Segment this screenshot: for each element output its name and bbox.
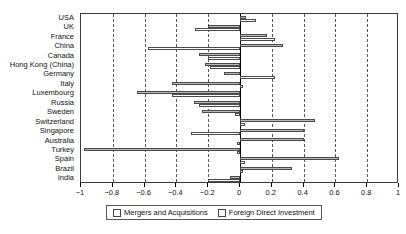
bar-mergers [84, 148, 240, 151]
y-axis-label: USA [59, 14, 74, 22]
bar-row [81, 156, 397, 165]
bar-row [81, 146, 397, 155]
x-tick-label: −1 [76, 188, 85, 197]
y-axis-label: Turkey [51, 146, 74, 154]
x-tick-mark [366, 183, 367, 187]
bar-mergers [240, 119, 315, 122]
bar-fdi [210, 66, 240, 69]
bar-fdi [235, 113, 240, 116]
bar-fdi [191, 132, 240, 135]
chart-figure: USAUKFranceChinaCanadaHong Kong (China)G… [0, 0, 406, 234]
bar-mergers [224, 72, 240, 75]
bar-fdi [240, 19, 256, 22]
bar-row [81, 118, 397, 127]
x-tick-mark [175, 183, 176, 187]
y-axis-label: Singapore [40, 127, 74, 135]
bar-fdi [240, 161, 245, 164]
x-tick-label: 0.8 [361, 188, 371, 197]
bar-mergers [240, 44, 283, 47]
x-tick-label: 0.6 [329, 188, 339, 197]
x-tick-mark [144, 183, 145, 187]
bar-mergers [172, 82, 240, 85]
x-tick-label: 0.2 [266, 188, 276, 197]
x-tick-label: 0 [237, 188, 241, 197]
x-tick-mark [303, 183, 304, 187]
x-tick-label: −0.4 [168, 188, 183, 197]
bar-row [81, 108, 397, 117]
bar-mergers [240, 157, 339, 160]
bar-fdi [240, 123, 245, 126]
legend-item-mergers-and-acquisitions: Mergers and Acquisitions [113, 208, 208, 217]
bar-row [81, 61, 397, 70]
bar-row [81, 52, 397, 61]
bar-row [81, 14, 397, 23]
bar-row [81, 127, 397, 136]
legend-label-fdi: Foreign Direct Investment [229, 208, 315, 217]
bar-row [81, 90, 397, 99]
x-tick-mark [207, 183, 208, 187]
bar-fdi [208, 179, 240, 182]
bar-fdi [237, 151, 240, 154]
y-axis-label: Luxembourg [32, 89, 74, 97]
y-axis-label: Australia [45, 137, 74, 145]
bar-fdi [240, 38, 275, 41]
y-axis-label: Russia [51, 99, 74, 107]
x-axis-tick-labels: −1−0.8−0.6−0.4−0.200.20.40.60.81 [80, 188, 398, 200]
bar-fdi [199, 104, 240, 107]
bar-row [81, 33, 397, 42]
bar-mergers [240, 129, 304, 132]
x-tick-label: 0.4 [297, 188, 307, 197]
bar-row [81, 23, 397, 32]
bar-fdi [240, 170, 243, 173]
legend-item-foreign-direct-investment: Foreign Direct Investment [218, 208, 315, 217]
y-axis-label: UK [64, 23, 74, 31]
y-axis-label: Germany [43, 70, 74, 78]
x-tick-mark [271, 183, 272, 187]
y-axis-label: Spain [55, 155, 74, 163]
legend-swatch-icon-fdi [218, 209, 226, 217]
x-tick-mark [112, 183, 113, 187]
y-axis-label: China [54, 42, 74, 50]
y-axis-label: Sweden [47, 108, 74, 116]
y-axis-label: Switzerland [35, 118, 74, 126]
x-tick-mark [80, 183, 81, 187]
x-tick-mark [334, 183, 335, 187]
bar-fdi [208, 57, 240, 60]
x-tick-label: −0.8 [104, 188, 119, 197]
y-axis-label: India [58, 174, 74, 182]
x-tick-mark [239, 183, 240, 187]
bar-fdi [195, 28, 240, 31]
bar-row [81, 71, 397, 80]
y-axis-label: Italy [60, 80, 74, 88]
bar-row [81, 137, 397, 146]
bar-rows [81, 14, 397, 182]
y-axis-label: Hong Kong (China) [10, 61, 74, 69]
bar-fdi [172, 94, 240, 97]
bar-row [81, 165, 397, 174]
x-tick-label: −0.2 [200, 188, 215, 197]
x-tick-mark [398, 183, 399, 187]
bar-row [81, 80, 397, 89]
x-tick-label: −0.6 [136, 188, 151, 197]
bar-fdi [240, 85, 243, 88]
y-axis-label: France [51, 33, 74, 41]
bar-row [81, 42, 397, 51]
legend-swatch-icon-mergers [113, 209, 121, 217]
bar-mergers [240, 167, 292, 170]
bar-fdi [240, 76, 275, 79]
legend-label-mergers: Mergers and Acquisitions [124, 208, 208, 217]
bar-row [81, 99, 397, 108]
y-axis-label: Canada [48, 52, 74, 60]
x-tick-label: 1 [396, 188, 400, 197]
bar-mergers [240, 138, 304, 141]
chart-legend: Mergers and Acquisitions Foreign Direct … [106, 205, 322, 220]
y-axis-label: Brazil [55, 165, 74, 173]
plot-area [80, 13, 398, 183]
bar-fdi [237, 142, 240, 145]
y-axis-category-labels: USAUKFranceChinaCanadaHong Kong (China)G… [0, 13, 78, 183]
bar-fdi [148, 47, 240, 50]
